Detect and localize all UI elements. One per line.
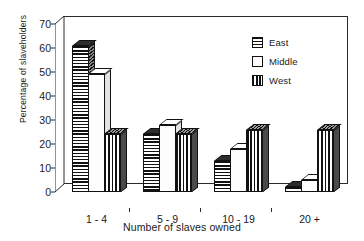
y-tick-mark xyxy=(51,24,55,25)
legend-label: Middle xyxy=(269,56,298,67)
y-tick-label: 10 xyxy=(39,162,51,174)
y-tick-mark xyxy=(51,120,55,121)
bar-series-area xyxy=(64,24,348,192)
legend-swatch-icon xyxy=(252,37,263,48)
bar-side-face xyxy=(121,130,127,192)
legend-label: East xyxy=(269,37,288,48)
y-tick-mark xyxy=(51,72,55,73)
chart-legend: EastMiddleWest xyxy=(252,33,298,90)
bar-side-face xyxy=(192,130,198,192)
bar-front-face xyxy=(72,46,89,192)
plot-area: 010203040506070 1 - 45 - 910 - 1920 + xyxy=(55,16,348,192)
bar-front-face xyxy=(214,161,231,192)
legend-item-middle: Middle xyxy=(252,52,298,71)
y-tick-mark xyxy=(51,144,55,145)
bar-front-face xyxy=(246,130,263,192)
bar-front-face xyxy=(104,134,121,192)
y-tick-label: 50 xyxy=(39,66,51,78)
bar-front-face xyxy=(143,134,160,192)
y-axis-title: Percentage of slaveholders xyxy=(18,0,28,154)
bar-group xyxy=(143,24,205,192)
legend-swatch-icon xyxy=(252,56,263,67)
y-tick-mark xyxy=(51,168,55,169)
legend-swatch-icon xyxy=(252,75,263,86)
legend-item-west: West xyxy=(252,71,298,90)
bar-side-face xyxy=(263,125,269,192)
bar-front-face xyxy=(230,149,247,192)
bar-front-face xyxy=(159,125,176,192)
bar-front-face xyxy=(88,74,105,192)
axis-3d-wall xyxy=(55,16,64,192)
y-tick-label: 20 xyxy=(39,138,51,150)
bar-group xyxy=(72,24,134,192)
x-tick-mark xyxy=(129,208,130,212)
bar-side-face xyxy=(334,125,340,192)
legend-label: West xyxy=(269,75,291,86)
y-tick-mark xyxy=(51,192,55,193)
x-tick-mark xyxy=(200,208,201,212)
y-tick-mark xyxy=(51,48,55,49)
bar-chart: Percentage of slaveholders 0102030405060… xyxy=(0,0,364,241)
y-tick-label: 40 xyxy=(39,90,51,102)
y-tick-label: 30 xyxy=(39,114,51,126)
y-tick-mark xyxy=(51,96,55,97)
x-tick-mark xyxy=(271,208,272,212)
legend-item-east: East xyxy=(252,33,298,52)
x-axis-title: Number of slaves owned xyxy=(0,221,364,233)
y-tick-label: 60 xyxy=(39,42,51,54)
bar-front-face xyxy=(317,130,334,192)
bar-front-face xyxy=(301,180,318,192)
y-tick-label: 70 xyxy=(39,18,51,30)
bar-front-face xyxy=(175,134,192,192)
bar-front-face xyxy=(285,187,302,192)
